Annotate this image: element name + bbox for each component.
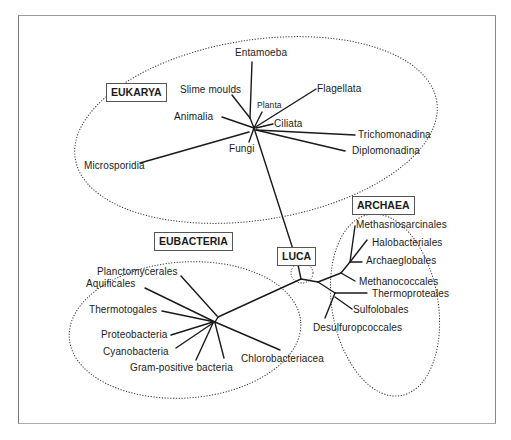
taxon-desulfuropcoccales: Desulfuropcoccales [313,322,402,334]
taxon-ciliata: Ciliata [274,118,303,130]
taxon-thermoproteales: Thermoproteales [372,288,449,300]
taxon-diplomonadina: Diplomonadina [352,145,420,157]
taxon-flagellata: Flagellata [317,83,361,95]
branch-thermotogales [162,311,215,322]
taxon-proteobacteria: Proteobacteria [101,329,167,341]
archaea-domain-label: ARCHAEA [352,196,415,215]
taxon-fungi: Fungi [229,143,255,155]
taxon-methanococcales: Methanococcales [359,276,438,288]
branch-eukarya-stem [254,128,298,265]
branch-trichomonadina [256,130,355,135]
taxon-entamoeba: Entamoeba [235,47,287,59]
taxon-trichomonadina: Trichomonadina [358,129,431,141]
branch-proteobacteria [171,322,213,335]
taxon-animalia: Animalia [174,111,213,123]
branch-entamoeba [250,62,252,118]
branch-chlorobacteriacea [215,322,280,350]
branch-fungi [249,128,254,142]
taxon-sulfolobales: Sulfolobales [353,304,409,316]
branch-planctomycerales [181,276,217,316]
branch-sulfolobales [335,297,352,309]
taxon-halobacteriales: Halobacteriales [372,237,442,249]
taxon-chlorobacteriacea: Chlorobacteriacea [241,353,324,365]
taxon-aquificales: Aquificales [86,278,135,290]
taxon-archaeglobales: Archaeglobales [366,255,436,267]
branch-methanococcales [341,273,355,281]
branch-luca-eubacteria [218,279,301,317]
branch-animalia [222,117,254,128]
branch-slime-moulds [232,95,250,118]
taxon-cyanobacteria: Cyanobacteria [103,346,169,358]
taxon-gram-positive-bacteria: Gram-positive bacteria [130,362,233,374]
luca-label: LUCA [277,247,316,266]
branch-desulfurococcales [325,293,335,318]
taxon-microsporidia: Microsporidia [84,160,145,172]
taxon-planctomycerales: Planctomycerales [97,266,178,278]
eukarya-domain-label: EUKARYA [106,83,167,102]
taxon-methanosarcinales: Methasnosarcinales [356,219,447,231]
taxon-planta: Planta [257,99,282,111]
eubacteria-domain-label: EUBACTERIA [154,232,233,251]
branch-gram-positive-2 [215,323,224,358]
branch-luca-archaea [301,279,318,282]
taxon-slime-moulds: Slime moulds [180,84,241,96]
taxon-thermotogales: Thermotogales [89,304,157,316]
